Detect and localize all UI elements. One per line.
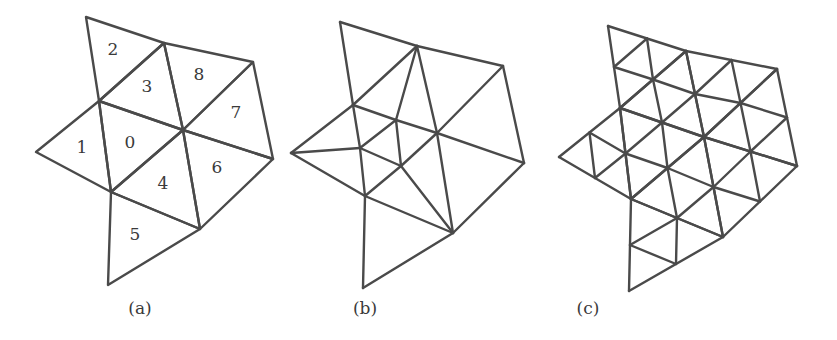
triangle-label-1: 1: [77, 137, 88, 157]
mesh-edge-BE: [437, 66, 503, 133]
mesh-edge-EH: [401, 133, 437, 166]
triangle-label-6: 6: [212, 157, 223, 177]
refined-triangle-0: [662, 123, 668, 169]
refined-triangle-6: [714, 152, 751, 188]
refined-triangle-5: [630, 218, 677, 245]
mesh-edge-DH: [396, 120, 401, 166]
mesh-edge-GH: [360, 148, 401, 166]
mesh-edge-KL: [363, 233, 453, 288]
refined-triangle-4: [668, 168, 714, 187]
mesh-edge-AB: [417, 46, 503, 66]
mesh-edge-CD: [353, 105, 396, 120]
refined-triangle-6: [714, 187, 761, 202]
refined-triangle-8: [732, 60, 741, 103]
refined-triangle-5: [630, 245, 676, 264]
mesh-edge-DE: [396, 120, 437, 133]
triangle-label-5: 5: [130, 224, 141, 244]
triangle-label-8: 8: [194, 64, 205, 84]
refined-triangle-4: [677, 187, 714, 218]
panel-c-uniform-refinement: [559, 26, 797, 291]
refined-triangle-2: [614, 67, 653, 80]
refined-triangle-8: [695, 94, 741, 103]
mesh-edge-IK: [453, 163, 524, 233]
mesh-edge-HJ: [365, 166, 401, 196]
refined-triangle-6: [751, 152, 761, 202]
refined-triangle-3: [653, 80, 662, 123]
panel-a-base-mesh: 012345678: [36, 17, 273, 285]
mesh-edge-BI: [503, 66, 524, 163]
triangle-label-7: 7: [231, 102, 242, 122]
triangle-5: [108, 192, 200, 285]
mesh-edge-TC: [340, 22, 353, 105]
refined-triangle-2: [647, 39, 653, 80]
triangle-label-3: 3: [142, 76, 153, 96]
caption-a: (a): [128, 298, 151, 318]
mesh-edge-GJ: [360, 148, 365, 196]
refined-triangle-0: [626, 123, 663, 154]
refined-triangle-0: [626, 154, 668, 169]
refined-triangle-4: [668, 168, 678, 218]
mesh-edge-DG: [360, 120, 396, 148]
refined-triangle-7: [741, 103, 788, 118]
refined-triangle-3: [662, 94, 695, 123]
mesh-edge-FG: [291, 148, 360, 153]
caption-c: (c): [577, 298, 600, 318]
refined-triangle-5: [676, 218, 677, 264]
refined-triangle-7: [741, 103, 751, 152]
refined-triangle-3: [653, 80, 695, 95]
refined-triangle-1: [590, 133, 626, 154]
refined-triangle-7: [751, 118, 788, 152]
refined-triangle-2: [614, 39, 647, 68]
refined-triangle-1: [595, 154, 626, 179]
triangle-label-4: 4: [158, 173, 169, 193]
mesh-edge-TA: [340, 22, 417, 46]
panel-b-adaptive-refinement: [291, 22, 524, 288]
triangle-label-2: 2: [108, 39, 119, 59]
mesh-edge-JL: [363, 196, 365, 288]
mesh-edge-CF: [291, 105, 353, 153]
mesh-refinement-figure: 012345678: [0, 0, 837, 340]
refined-triangle-1: [590, 133, 596, 179]
mesh-edge-CG: [353, 105, 360, 148]
mesh-edge-FJ: [291, 153, 365, 196]
caption-b: (b): [353, 298, 377, 318]
mesh-edge-EI: [437, 133, 524, 163]
refined-triangle-8: [695, 60, 732, 94]
triangle-1: [36, 101, 111, 192]
mesh-edge-EK: [437, 133, 453, 233]
mesh-edge-AE: [417, 46, 437, 133]
triangle-label-0: 0: [125, 132, 136, 152]
